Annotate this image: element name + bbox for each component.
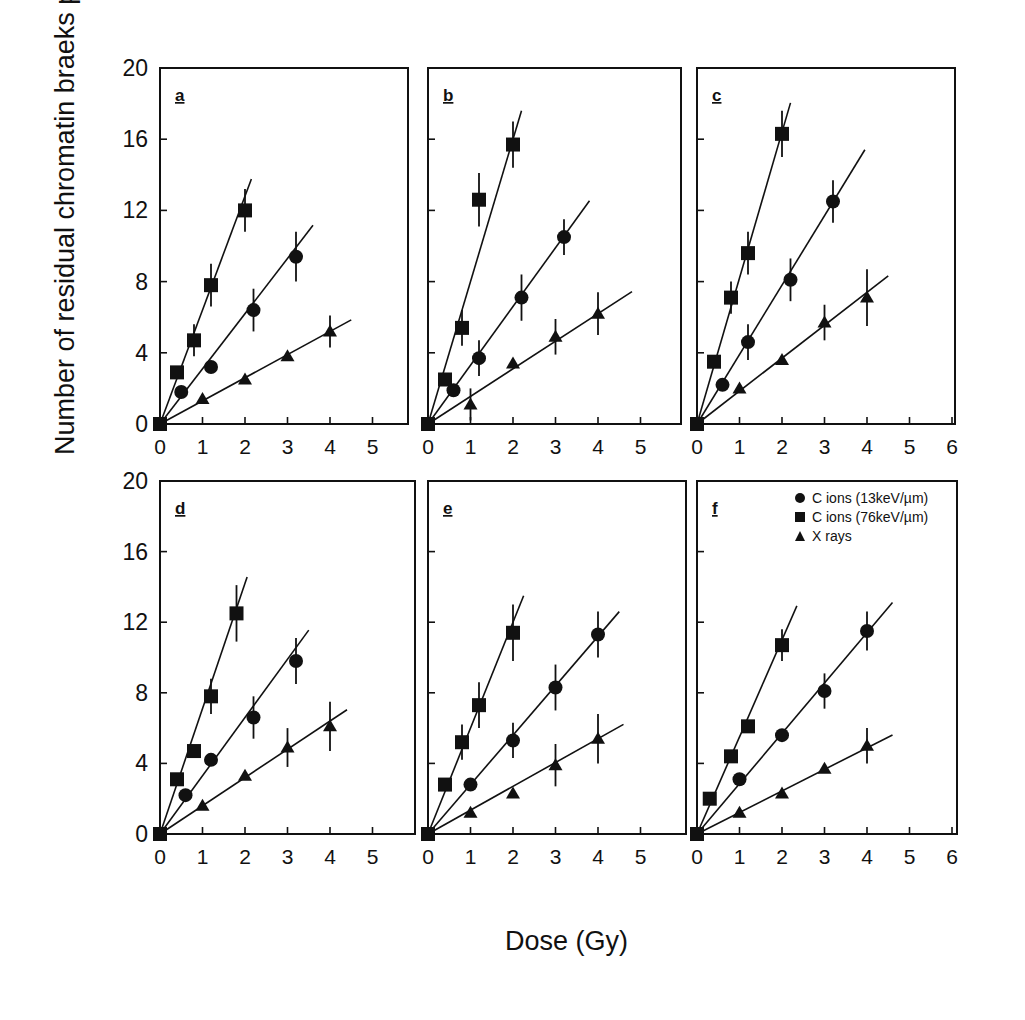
triangle-marker bbox=[323, 719, 337, 731]
panel-letter: a bbox=[175, 86, 185, 105]
panel-letter: f bbox=[712, 499, 718, 518]
x-tick-label: 4 bbox=[324, 435, 336, 458]
y-tick-label: 16 bbox=[122, 126, 148, 152]
x-tick-label: 4 bbox=[861, 845, 873, 868]
y-tick-label: 20 bbox=[122, 468, 148, 494]
legend: C ions (13keV/µm)C ions (76keV/µm)X rays bbox=[795, 490, 928, 544]
x-tick-label: 0 bbox=[422, 435, 434, 458]
x-tick-label: 2 bbox=[239, 435, 251, 458]
circle-marker bbox=[464, 778, 478, 792]
square-marker bbox=[472, 193, 486, 207]
x-axis-label: Dose (Gy) bbox=[505, 926, 628, 957]
x-tick-label: 2 bbox=[776, 845, 788, 868]
square-marker bbox=[775, 127, 789, 141]
square-marker bbox=[506, 138, 520, 152]
x-tick-label: 1 bbox=[734, 435, 746, 458]
x-tick-label: 5 bbox=[367, 845, 379, 868]
square-marker bbox=[775, 638, 789, 652]
triangle-marker bbox=[323, 324, 337, 336]
triangle-marker bbox=[733, 806, 747, 818]
circle-marker bbox=[289, 654, 303, 668]
y-tick-label: 8 bbox=[135, 269, 148, 295]
square-marker bbox=[187, 333, 201, 347]
square-marker bbox=[187, 744, 201, 758]
square-marker bbox=[741, 719, 755, 733]
square-marker bbox=[170, 365, 184, 379]
square-marker bbox=[455, 735, 469, 749]
y-tick-label: 0 bbox=[135, 821, 148, 847]
triangle-marker bbox=[591, 732, 605, 744]
panel-letter: c bbox=[712, 86, 721, 105]
circle-marker bbox=[826, 195, 840, 209]
triangle-marker bbox=[549, 330, 563, 342]
legend-label: C ions (76keV/µm) bbox=[812, 509, 928, 525]
y-tick-label: 20 bbox=[122, 55, 148, 81]
circle-marker bbox=[733, 772, 747, 786]
legend-label: X rays bbox=[812, 528, 852, 544]
triangle-marker bbox=[506, 356, 520, 368]
circle-marker bbox=[472, 351, 486, 365]
x-tick-label: 3 bbox=[282, 845, 294, 868]
square-marker bbox=[703, 792, 717, 806]
x-tick-label: 5 bbox=[904, 845, 916, 868]
panel-letter: d bbox=[175, 499, 185, 518]
square-marker bbox=[238, 203, 252, 217]
x-tick-label: 0 bbox=[154, 435, 166, 458]
triangle-marker bbox=[591, 307, 605, 319]
chart-canvas: 012345048121620a012345b0123456c012345048… bbox=[0, 0, 1025, 1020]
square-marker bbox=[724, 291, 738, 305]
circle-marker bbox=[506, 733, 520, 747]
circle-marker bbox=[247, 711, 261, 725]
x-tick-label: 6 bbox=[946, 435, 958, 458]
panel-c: 0123456c bbox=[690, 68, 958, 458]
x-tick-label: 3 bbox=[550, 845, 562, 868]
x-tick-label: 0 bbox=[691, 435, 703, 458]
circle-marker bbox=[204, 360, 218, 374]
x-tick-label: 3 bbox=[282, 435, 294, 458]
circle-marker bbox=[179, 788, 193, 802]
x-tick-label: 5 bbox=[635, 435, 647, 458]
panel-f: 0123456fC ions (13keV/µm)C ions (76keV/µ… bbox=[690, 481, 958, 868]
square-marker bbox=[506, 626, 520, 640]
circle-marker bbox=[549, 681, 563, 695]
legend-label: C ions (13keV/µm) bbox=[812, 490, 928, 506]
circle-marker bbox=[247, 303, 261, 317]
circle-marker bbox=[860, 624, 874, 638]
x-tick-label: 2 bbox=[507, 435, 519, 458]
x-tick-label: 1 bbox=[465, 845, 477, 868]
y-tick-label: 4 bbox=[135, 340, 148, 366]
square-marker bbox=[455, 321, 469, 335]
y-tick-label: 8 bbox=[135, 680, 148, 706]
circle-marker bbox=[557, 230, 571, 244]
y-tick-label: 0 bbox=[135, 411, 148, 437]
circle-marker bbox=[289, 250, 303, 264]
square-marker bbox=[741, 246, 755, 260]
x-tick-label: 5 bbox=[635, 845, 647, 868]
square-marker bbox=[724, 749, 738, 763]
x-tick-label: 3 bbox=[819, 845, 831, 868]
square-marker bbox=[170, 772, 184, 786]
x-tick-label: 1 bbox=[734, 845, 746, 868]
square-marker bbox=[438, 373, 452, 387]
x-tick-label: 4 bbox=[592, 845, 604, 868]
x-tick-label: 4 bbox=[592, 435, 604, 458]
x-tick-label: 1 bbox=[197, 845, 209, 868]
x-tick-label: 0 bbox=[691, 845, 703, 868]
x-tick-label: 1 bbox=[197, 435, 209, 458]
x-tick-label: 2 bbox=[776, 435, 788, 458]
square-marker bbox=[438, 778, 452, 792]
x-tick-label: 2 bbox=[507, 845, 519, 868]
circle-marker bbox=[591, 628, 605, 642]
square-marker bbox=[204, 689, 218, 703]
x-tick-label: 1 bbox=[465, 435, 477, 458]
circle-marker bbox=[204, 753, 218, 767]
panel-letter: e bbox=[443, 499, 452, 518]
y-axis-label: Number of residual chromatin braeks per … bbox=[50, 0, 81, 455]
square-marker bbox=[230, 606, 244, 620]
x-tick-label: 4 bbox=[861, 435, 873, 458]
square-marker bbox=[472, 698, 486, 712]
y-tick-label: 4 bbox=[135, 750, 148, 776]
square-marker bbox=[204, 278, 218, 292]
x-tick-label: 5 bbox=[904, 435, 916, 458]
x-tick-label: 5 bbox=[367, 435, 379, 458]
